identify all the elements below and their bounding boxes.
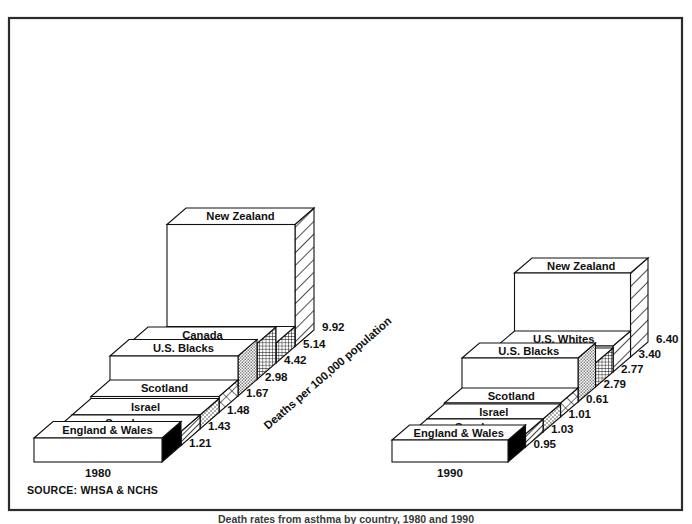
panel-1980: New Zealand9.92U.S. Whites5.14Canada4.42…: [34, 208, 345, 479]
bar-value: 1.43: [208, 419, 231, 432]
bar-new-zealand: New Zealand9.92: [167, 208, 345, 347]
bar-value: 2.79: [604, 377, 627, 390]
bar-value: 2.77: [621, 362, 644, 375]
bar-front-face: [392, 440, 508, 462]
bar-value: 1.03: [551, 422, 574, 435]
bar-value: 3.40: [639, 347, 662, 360]
bar-label: England & Wales: [62, 424, 152, 436]
bar-label: Scotland: [141, 382, 188, 394]
bar-label: New Zealand: [547, 260, 616, 272]
bar-side-face: [295, 208, 314, 347]
bar-label: U.S. Blacks: [498, 345, 559, 357]
bar-side-face: [631, 258, 649, 357]
bar-label: Israel: [131, 401, 160, 413]
bar-label: England & Wales: [414, 427, 504, 439]
bar-value: 9.92: [322, 320, 345, 333]
bar-front-face: [34, 438, 162, 462]
bar-value: 2.98: [265, 370, 288, 383]
bar-label: New Zealand: [206, 210, 275, 222]
bar-value: 0.61: [586, 392, 609, 405]
panel-year-label: 1990: [437, 466, 463, 479]
figure-caption: Death rates from asthma by country, 1980…: [0, 513, 692, 524]
bar-label: Scotland: [488, 390, 535, 402]
bar-value: 0.95: [534, 437, 557, 450]
bar-value: 6.40: [656, 332, 679, 345]
bar-value: 1.01: [569, 407, 592, 420]
bar-label: U.S. Blacks: [153, 342, 214, 354]
bar-value: 4.42: [284, 353, 307, 366]
bar-value: 1.67: [246, 386, 269, 399]
bar-value: 5.14: [303, 337, 326, 350]
bar-label: Israel: [479, 406, 508, 418]
bar-value: 1.21: [189, 436, 212, 449]
panel-year-label: 1980: [85, 466, 111, 479]
panel-1990: New Zealand6.40U.S. Whites3.40Canada2.77…: [392, 258, 679, 479]
source-note: SOURCE: WHSA & NCHS: [27, 484, 158, 496]
bar-value: 1.48: [227, 403, 250, 416]
